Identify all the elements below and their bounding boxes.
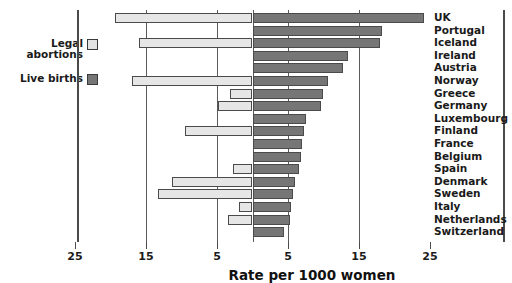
bar-live-births xyxy=(253,227,284,237)
bar-legal-abortions xyxy=(228,215,252,225)
bar-legal-abortions xyxy=(239,202,252,212)
bar-legal-abortions xyxy=(172,177,252,187)
chart-row: Netherlands xyxy=(0,214,503,227)
bar-live-births xyxy=(253,215,291,225)
bar-live-births xyxy=(253,202,291,212)
chart-row: Sweden xyxy=(0,188,503,201)
category-label: Austria xyxy=(434,61,477,74)
bar-live-births xyxy=(253,89,323,99)
bar-legal-abortions xyxy=(115,13,253,23)
bar-live-births xyxy=(253,13,425,23)
bar-rows: UKPortugalIcelandIrelandAustriaNorwayGre… xyxy=(0,12,503,239)
category-label: Germany xyxy=(434,99,487,112)
chart-row: Austria xyxy=(0,62,503,75)
tick-mark xyxy=(146,242,147,249)
bar-live-births xyxy=(253,76,328,86)
category-label: Netherlands xyxy=(434,213,507,226)
chart-row: Germany xyxy=(0,100,503,113)
tick-mark xyxy=(288,242,289,249)
category-label: Italy xyxy=(434,200,460,213)
chart-row: Switzerland xyxy=(0,226,503,239)
chart-row: Luxembourg xyxy=(0,113,503,126)
bar-live-births xyxy=(253,38,381,48)
bar-legal-abortions xyxy=(158,189,252,199)
chart-row: France xyxy=(0,138,503,151)
bar-legal-abortions xyxy=(233,164,252,174)
chart-row: Greece xyxy=(0,88,503,101)
bar-live-births xyxy=(253,164,300,174)
bar-live-births xyxy=(253,63,343,73)
bar-live-births xyxy=(253,51,349,61)
tick-label-left-5: 5 xyxy=(213,250,221,263)
bar-live-births xyxy=(253,26,382,36)
x-axis-title: Rate per 1000 women xyxy=(77,267,512,283)
chart-row: Portugal xyxy=(0,25,503,38)
bar-legal-abortions xyxy=(218,101,252,111)
category-label: UK xyxy=(434,11,451,24)
bar-live-births xyxy=(253,101,321,111)
category-label: Belgium xyxy=(434,150,482,163)
chart-row: Belgium xyxy=(0,151,503,164)
tick-label-right-25: 25 xyxy=(422,250,437,263)
bar-live-births xyxy=(253,152,301,162)
bar-legal-abortions xyxy=(139,38,253,48)
category-label: Greece xyxy=(434,87,475,100)
chart-row: Ireland xyxy=(0,50,503,63)
bar-legal-abortions xyxy=(185,126,252,136)
chart-row: UK xyxy=(0,12,503,25)
category-label: Luxembourg xyxy=(434,112,508,125)
bar-live-births xyxy=(253,114,306,124)
category-label: Norway xyxy=(434,74,479,87)
tick-mark xyxy=(75,242,76,249)
bar-live-births xyxy=(253,177,296,187)
tick-label-left-25: 25 xyxy=(67,250,82,263)
category-label: Iceland xyxy=(434,36,477,49)
tick-mark xyxy=(359,242,360,249)
category-label: Finland xyxy=(434,124,478,137)
tick-mark xyxy=(430,242,431,249)
bar-live-births xyxy=(253,139,303,149)
tick-label-right-5: 5 xyxy=(284,250,292,263)
category-label: Ireland xyxy=(434,49,476,62)
chart-row: Denmark xyxy=(0,176,503,189)
chart-row: Norway xyxy=(0,75,503,88)
chart-row: Spain xyxy=(0,163,503,176)
bar-live-births xyxy=(253,126,304,136)
tick-mark xyxy=(217,242,218,249)
bar-legal-abortions xyxy=(132,76,253,86)
bar-live-births xyxy=(253,189,293,199)
chart-row: Finland xyxy=(0,125,503,138)
category-label: Sweden xyxy=(434,187,481,200)
category-label: Spain xyxy=(434,162,467,175)
category-label: Switzerland xyxy=(434,225,504,238)
bar-legal-abortions xyxy=(230,89,252,99)
chart-row: Iceland xyxy=(0,37,503,50)
category-label: Portugal xyxy=(434,24,485,37)
category-label: France xyxy=(434,137,474,150)
category-label: Denmark xyxy=(434,175,488,188)
tick-label-right-15: 15 xyxy=(351,250,366,263)
tick-label-left-15: 15 xyxy=(138,250,153,263)
chart-row: Italy xyxy=(0,201,503,214)
axis-line-right xyxy=(503,10,505,242)
